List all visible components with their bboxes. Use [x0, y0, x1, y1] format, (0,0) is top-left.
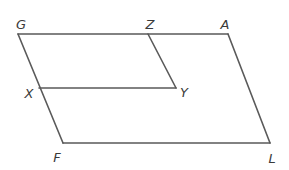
segments-group: [18, 34, 270, 143]
vertex-label-G: G: [16, 18, 26, 31]
segment-ZY: [148, 34, 176, 88]
vertex-label-A: A: [221, 18, 230, 31]
vertex-label-Z: Z: [146, 18, 155, 31]
vertex-label-Y: Y: [180, 86, 188, 99]
vertex-label-F: F: [53, 151, 60, 164]
vertex-label-X: X: [25, 87, 34, 100]
vertex-label-L: L: [268, 152, 275, 165]
segment-AL: [228, 34, 270, 143]
geometry-diagram: [0, 0, 289, 170]
